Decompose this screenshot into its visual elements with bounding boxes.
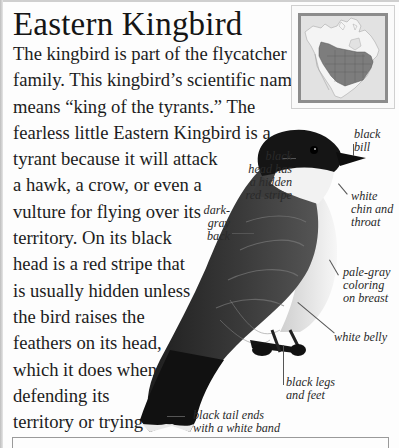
left-border <box>0 0 3 448</box>
body-line: family. This kingbird’s scientific name <box>13 67 300 93</box>
label-line: and feet <box>286 389 335 402</box>
body-line: the bird raises the <box>13 304 300 330</box>
body-line: The kingbird is part of the flycatcher <box>13 41 300 67</box>
label-white-chin: white chin and throat <box>351 190 393 229</box>
label-line: on breast <box>343 292 390 305</box>
label-black-head: black head has a hidden red stripe <box>236 150 292 202</box>
body-paragraph: The kingbird is part of the flycatcher f… <box>13 41 300 448</box>
body-line: territory. On its black <box>13 225 300 251</box>
label-black-bill: black bill <box>354 128 380 154</box>
label-line: throat <box>351 216 393 229</box>
body-line: which it does when <box>13 357 300 383</box>
north-america-map-icon <box>301 16 385 100</box>
body-line: vulture for flying over its <box>13 199 300 225</box>
leader-line-back <box>232 233 254 234</box>
label-line: with a white band <box>193 422 280 435</box>
leader-line-legs <box>283 345 284 385</box>
label-line: red stripe <box>236 189 292 202</box>
range-map <box>298 13 388 103</box>
leader-line-tail <box>167 416 185 417</box>
bottom-info-box <box>12 437 389 448</box>
encyclopedia-page: Eastern Kingbird The kingbird is part of… <box>0 0 399 448</box>
label-line: white belly <box>334 331 387 344</box>
body-line: means “king of the tyrants.” The <box>13 94 300 120</box>
leader-line-belly <box>297 302 334 334</box>
page-title: Eastern Kingbird <box>13 6 243 42</box>
body-line: head is a red stripe that <box>13 251 300 277</box>
label-pale-gray-breast: pale-gray coloring on breast <box>343 266 390 305</box>
body-line: defending its <box>13 383 300 409</box>
label-line: back <box>196 230 230 243</box>
leader-line-chin <box>338 183 348 194</box>
top-border <box>0 0 399 2</box>
label-black-legs: black legs and feet <box>286 376 335 402</box>
label-dark-gray-back: dark- gray back <box>196 204 230 243</box>
body-line: feathers on its head, <box>13 330 300 356</box>
range-map-frame <box>291 5 395 109</box>
label-black-tail: black tail ends with a white band <box>193 409 280 435</box>
body-line: is usually hidden unless <box>13 278 300 304</box>
label-line: bill <box>354 141 380 154</box>
body-line: fearless little Eastern Kingbird is a <box>13 120 300 146</box>
label-white-belly: white belly <box>334 331 387 344</box>
leader-line-breast <box>329 260 339 276</box>
